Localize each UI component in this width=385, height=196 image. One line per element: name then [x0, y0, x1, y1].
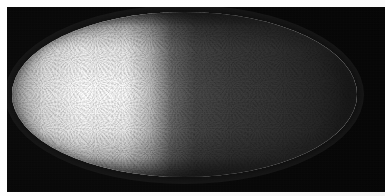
micrograph-figure: [0, 0, 385, 196]
micrograph-panel: [7, 7, 385, 192]
scan-line-noise: [7, 7, 385, 192]
